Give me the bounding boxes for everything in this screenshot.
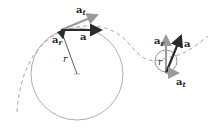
label-a-right: a [184,38,191,49]
diagram: at a ar r ar a at r [0,0,209,128]
label-at-left: at [76,4,86,17]
label-a-left: a [80,31,87,42]
acceleration-diagram: at a ar r ar a at r [0,0,209,128]
label-at-right: at [176,76,186,89]
label-r-left: r [63,54,68,64]
label-r-right: r [158,57,163,67]
label-ar-right: ar [154,35,165,48]
